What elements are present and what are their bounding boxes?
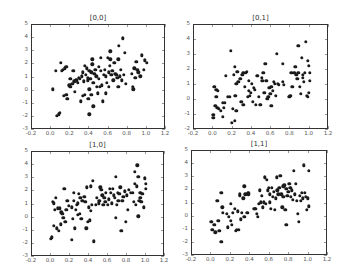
data-point bbox=[295, 77, 298, 80]
x-tick-label: 0.0 bbox=[43, 130, 57, 136]
y-tick-mark bbox=[193, 69, 196, 70]
y-tick-mark bbox=[31, 77, 34, 78]
y-tick-mark bbox=[191, 163, 194, 164]
data-point bbox=[216, 199, 219, 202]
y-tick-mark bbox=[324, 229, 327, 230]
scatter-plot-area bbox=[31, 151, 164, 256]
data-point bbox=[52, 201, 55, 204]
data-point bbox=[305, 208, 308, 211]
data-point bbox=[229, 49, 232, 52]
y-tick-mark bbox=[324, 163, 327, 164]
y-tick-mark bbox=[324, 189, 327, 190]
data-point bbox=[144, 187, 147, 190]
scatter-plot-area bbox=[193, 24, 328, 129]
y-tick-mark bbox=[31, 103, 34, 104]
data-point bbox=[223, 101, 226, 104]
x-tick-mark bbox=[212, 24, 213, 27]
data-point bbox=[139, 196, 142, 199]
data-point bbox=[294, 65, 297, 68]
data-point bbox=[92, 105, 95, 108]
x-tick-mark bbox=[88, 151, 89, 154]
x-tick-mark bbox=[50, 151, 51, 154]
data-point bbox=[303, 191, 306, 194]
data-point bbox=[232, 73, 235, 76]
y-tick-mark bbox=[191, 203, 194, 204]
y-tick-mark bbox=[31, 129, 34, 130]
data-point bbox=[124, 220, 127, 223]
data-point bbox=[105, 81, 108, 84]
x-tick-label: 0.2 bbox=[62, 130, 76, 136]
data-point bbox=[269, 104, 272, 107]
data-point bbox=[140, 200, 143, 203]
data-point bbox=[277, 83, 280, 86]
x-tick-mark bbox=[107, 253, 108, 256]
y-tick-mark bbox=[191, 216, 194, 217]
data-point bbox=[283, 183, 286, 186]
data-point bbox=[269, 85, 272, 88]
y-tick-label: 3 bbox=[17, 46, 28, 52]
data-point bbox=[300, 56, 303, 59]
data-point bbox=[113, 61, 116, 64]
data-point bbox=[119, 68, 122, 71]
data-point bbox=[266, 189, 269, 192]
y-tick-mark bbox=[31, 164, 34, 165]
data-point bbox=[259, 103, 262, 106]
data-point bbox=[76, 201, 79, 204]
data-point bbox=[268, 92, 271, 95]
data-point bbox=[214, 95, 217, 98]
x-tick-mark bbox=[146, 126, 147, 129]
x-tick-mark bbox=[270, 24, 271, 27]
data-point bbox=[71, 217, 74, 220]
data-point bbox=[107, 198, 110, 201]
data-point bbox=[242, 197, 245, 200]
data-point bbox=[281, 62, 284, 65]
data-point bbox=[236, 70, 239, 73]
x-tick-label: 0.0 bbox=[43, 257, 57, 263]
x-tick-label: 0.0 bbox=[203, 256, 217, 262]
x-tick-mark bbox=[88, 24, 89, 27]
data-point bbox=[258, 189, 261, 192]
x-tick-label: 0.2 bbox=[225, 130, 239, 136]
y-tick-label: 4 bbox=[179, 35, 190, 41]
y-tick-mark bbox=[161, 177, 164, 178]
data-point bbox=[235, 109, 238, 112]
y-tick-mark bbox=[325, 129, 328, 130]
y-tick-label: 1 bbox=[179, 80, 190, 86]
data-point bbox=[124, 82, 127, 85]
data-point bbox=[98, 199, 101, 202]
data-point bbox=[126, 208, 129, 211]
y-tick-label: 0 bbox=[17, 86, 28, 92]
data-point bbox=[287, 182, 290, 185]
data-point bbox=[307, 204, 310, 207]
data-point bbox=[119, 186, 122, 189]
x-tick-mark bbox=[232, 24, 233, 27]
x-tick-mark bbox=[210, 252, 211, 255]
x-tick-mark bbox=[327, 150, 328, 153]
data-point bbox=[93, 68, 96, 71]
data-point bbox=[137, 215, 140, 218]
data-point bbox=[58, 111, 61, 114]
x-tick-mark bbox=[108, 24, 109, 27]
data-point bbox=[145, 61, 148, 64]
data-point bbox=[248, 94, 251, 97]
data-point bbox=[130, 72, 133, 75]
data-point bbox=[290, 189, 293, 192]
data-point bbox=[241, 103, 244, 106]
x-tick-label: 1.2 bbox=[321, 130, 335, 136]
data-point bbox=[289, 94, 292, 97]
data-point bbox=[77, 192, 80, 195]
y-tick-mark bbox=[325, 99, 328, 100]
data-point bbox=[64, 220, 67, 223]
data-point bbox=[275, 52, 278, 55]
y-tick-mark bbox=[324, 242, 327, 243]
data-point bbox=[89, 77, 92, 80]
data-point bbox=[291, 85, 294, 88]
data-point bbox=[58, 207, 61, 210]
data-point bbox=[142, 68, 145, 71]
y-tick-mark bbox=[162, 116, 165, 117]
y-tick-label: 4 bbox=[17, 33, 28, 39]
y-tick-mark bbox=[325, 54, 328, 55]
data-point bbox=[293, 193, 296, 196]
data-point bbox=[108, 64, 111, 67]
y-tick-mark bbox=[325, 39, 328, 40]
